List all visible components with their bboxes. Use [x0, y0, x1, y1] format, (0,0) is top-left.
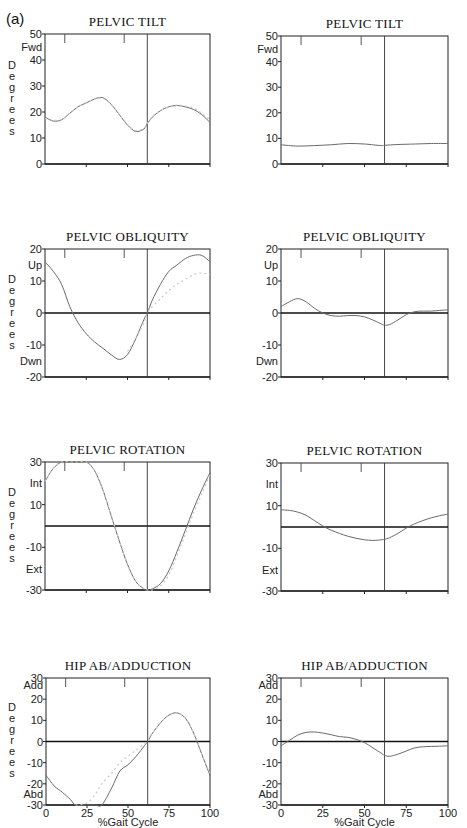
y-axis-letter: s — [9, 767, 15, 779]
y-tick-label: 30 — [30, 80, 42, 92]
y-tick-label: 10 — [31, 714, 43, 726]
y-tick-label: -30 — [262, 799, 278, 811]
direction-label-top: Int — [266, 478, 278, 490]
chart-title: PELVIC TILT — [326, 16, 404, 31]
patient-curve — [45, 255, 210, 360]
x-tick-label: 25 — [81, 807, 93, 819]
y-tick-label: -30 — [26, 584, 42, 596]
y-tick-label: 30 — [30, 456, 42, 468]
y-tick-label: -10 — [262, 339, 278, 351]
y-tick-label: 20 — [266, 693, 278, 705]
direction-label-bottom: Ext — [262, 564, 278, 576]
y-tick-label: 0 — [37, 736, 43, 748]
gait-figure: (a) PELVIC TILT01020304050FwdDegreesPELV… — [0, 0, 467, 828]
y-tick-label: -10 — [27, 757, 43, 769]
y-tick-label: 20 — [31, 693, 43, 705]
y-tick-label: 50 — [266, 30, 278, 42]
direction-label-bottom: Ext — [26, 563, 42, 575]
direction-label-top: Up — [264, 259, 278, 271]
chart-hip-left: HIP AB/ADDUCTION-30-20-100102030AddAbdDe… — [8, 658, 219, 828]
x-axis-label: %Gait Cycle — [98, 816, 159, 828]
direction-label-bottom: Abd — [258, 788, 278, 800]
y-tick-label: -20 — [262, 371, 278, 383]
charts-group: PELVIC TILT01020304050FwdDegreesPELVIC T… — [8, 14, 457, 828]
chart-rotation-right: PELVIC ROTATION-30-101030IntExt — [262, 443, 448, 597]
y-tick-label: 0 — [36, 158, 42, 170]
y-tick-label: 20 — [266, 107, 278, 119]
patient-curve — [46, 713, 210, 806]
x-tick-label: 0 — [43, 807, 49, 819]
patient-curve — [281, 732, 448, 756]
chart-title: PELVIC TILT — [89, 14, 167, 29]
chart-title: HIP AB/ADDUCTION — [301, 658, 428, 673]
direction-label-top: Fwd — [257, 43, 278, 55]
y-tick-label: -30 — [27, 799, 43, 811]
normal-curve — [76, 713, 211, 805]
chart-title: PELVIC OBLIQUITY — [66, 229, 189, 244]
y-tick-label: 10 — [30, 499, 42, 511]
patient-curve — [281, 143, 448, 146]
chart-obliquity-right: PELVIC OBLIQUITY-20-1001020UpDwn — [256, 229, 448, 383]
direction-label-top: Up — [28, 259, 42, 271]
chart-tilt-right: PELVIC TILT01020304050Fwd — [257, 16, 448, 170]
patient-curve — [281, 510, 448, 541]
y-axis-letter: s — [9, 552, 15, 564]
patient-curve — [281, 299, 448, 326]
chart-obliquity-left: PELVIC OBLIQUITY-20-1001020UpDwnDegrees — [8, 229, 210, 383]
y-tick-label: 40 — [30, 54, 42, 66]
y-tick-label: 0 — [272, 736, 278, 748]
x-tick-label: 0 — [278, 807, 284, 819]
plot-frame — [45, 34, 210, 164]
x-tick-label: 75 — [400, 807, 412, 819]
y-tick-label: 10 — [266, 500, 278, 512]
direction-label-top: Fwd — [21, 41, 42, 53]
y-tick-label: 10 — [30, 275, 42, 287]
y-tick-label: 20 — [30, 106, 42, 118]
y-tick-label: 0 — [36, 307, 42, 319]
y-tick-label: 10 — [266, 275, 278, 287]
y-axis-letter: s — [9, 125, 15, 137]
y-tick-label: 40 — [266, 56, 278, 68]
y-tick-label: -10 — [26, 339, 42, 351]
y-tick-label: 30 — [266, 457, 278, 469]
panel-label: (a) — [6, 10, 24, 27]
x-tick-label: 100 — [201, 807, 219, 819]
y-tick-label: 10 — [30, 132, 42, 144]
x-axis-label: %Gait Cycle — [334, 816, 395, 828]
y-tick-label: 0 — [272, 307, 278, 319]
direction-label-top: Int — [30, 477, 42, 489]
y-tick-label: 50 — [30, 28, 42, 40]
chart-title: PELVIC ROTATION — [306, 443, 422, 458]
chart-hip-right: HIP AB/ADDUCTION-30-20-100102030AddAbd02… — [258, 658, 457, 828]
y-tick-label: 10 — [266, 714, 278, 726]
y-tick-label: -10 — [262, 757, 278, 769]
normal-curve — [128, 273, 211, 351]
y-tick-label: -10 — [26, 541, 42, 553]
x-tick-label: 75 — [163, 807, 175, 819]
y-tick-label: 0 — [272, 158, 278, 170]
y-tick-label: -30 — [262, 585, 278, 597]
chart-title: HIP AB/ADDUCTION — [65, 658, 192, 673]
plot-frame — [281, 36, 448, 164]
y-tick-label: -10 — [262, 542, 278, 554]
direction-label-bottom: Dwn — [256, 355, 278, 367]
y-tick-label: 20 — [30, 243, 42, 255]
direction-label-bottom: Dwn — [20, 355, 42, 367]
direction-label-bottom: Abd — [23, 788, 43, 800]
y-tick-label: -20 — [26, 371, 42, 383]
y-tick-label: 20 — [266, 243, 278, 255]
chart-title: PELVIC OBLIQUITY — [303, 229, 426, 244]
y-axis-letter: s — [9, 339, 15, 351]
patient-curve — [45, 97, 210, 131]
y-tick-label: 30 — [266, 81, 278, 93]
chart-tilt-left: PELVIC TILT01020304050FwdDegrees — [8, 14, 210, 170]
chart-title: PELVIC ROTATION — [69, 442, 185, 457]
direction-label-top: Add — [23, 679, 43, 691]
normal-curve — [45, 98, 210, 131]
chart-rotation-left: PELVIC ROTATION-30-101030IntExtDegrees — [8, 442, 210, 596]
direction-label-top: Add — [258, 679, 278, 691]
x-tick-label: 25 — [317, 807, 329, 819]
y-tick-label: 10 — [266, 132, 278, 144]
x-tick-label: 100 — [439, 807, 457, 819]
